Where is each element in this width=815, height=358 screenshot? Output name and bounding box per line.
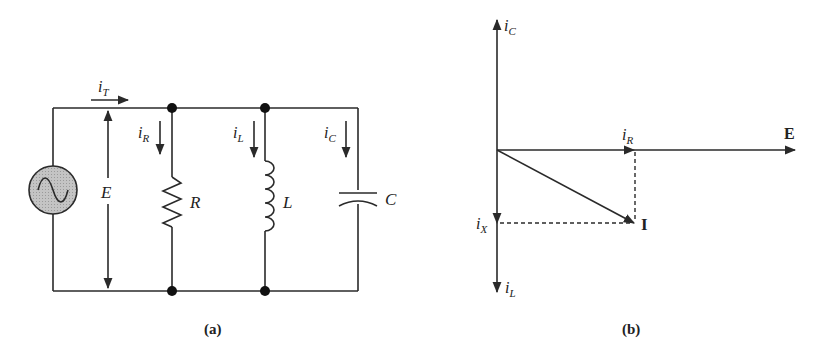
i-phasor <box>497 150 634 223</box>
voltage-indicator: E <box>100 111 112 288</box>
svg-text:iL: iL <box>233 124 244 144</box>
ir-label: iR <box>622 126 633 146</box>
capacitor-label: C <box>385 190 397 209</box>
phasor-diagram: iC iX iL iR E I (b) <box>476 17 795 338</box>
capacitor-branch: iC C <box>324 121 397 209</box>
circuit-wires <box>53 108 358 291</box>
svg-text:iT: iT <box>98 78 109 98</box>
total-current-indicator: iT <box>91 78 128 100</box>
inductor-label: L <box>282 193 292 212</box>
resistor-branch: iR R <box>138 108 201 291</box>
resistor-symbol <box>163 177 181 227</box>
ic-label: iC <box>504 17 516 37</box>
ix-label: iX <box>476 215 488 235</box>
e-label: E <box>784 125 795 142</box>
svg-text:iC: iC <box>324 124 336 144</box>
inductor-symbol <box>265 161 274 231</box>
il-label: iL <box>505 279 516 299</box>
caption-b: (b) <box>622 321 640 338</box>
svg-text:iR: iR <box>138 124 149 144</box>
figure-canvas: E iT iR R iL L i <box>0 0 815 358</box>
ac-source <box>29 166 77 214</box>
resistor-label: R <box>189 193 201 212</box>
caption-a: (a) <box>204 321 222 338</box>
voltage-label: E <box>100 183 112 202</box>
circuit-diagram: E iT iR R iL L i <box>29 78 397 338</box>
inductor-branch: iL L <box>233 108 292 291</box>
i-label: I <box>641 215 648 234</box>
